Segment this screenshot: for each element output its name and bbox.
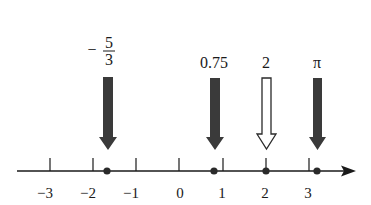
tick-labels: −3 −2 −1 0 1 2 3 xyxy=(37,185,312,201)
fraction-numerator: 5 xyxy=(105,34,113,51)
point-dot xyxy=(313,167,320,174)
tick-label: −3 xyxy=(37,185,53,201)
marker-label: π xyxy=(313,54,321,71)
down-arrow-filled-icon xyxy=(206,78,224,150)
tick-label: 0 xyxy=(176,185,184,201)
point-dot xyxy=(210,167,217,174)
marker-neg-five-thirds: − 5 3 xyxy=(87,34,117,175)
point-dot xyxy=(103,167,110,174)
axis-ticks xyxy=(50,158,309,171)
marker-label: 0.75 xyxy=(200,54,228,71)
tick-label: −1 xyxy=(123,185,139,201)
marker-2: 2 xyxy=(257,54,276,175)
fraction-label: − 5 3 xyxy=(87,34,115,68)
tick-label: 2 xyxy=(261,185,269,201)
down-arrow-hollow-icon xyxy=(257,78,276,149)
tick-label: 1 xyxy=(218,185,226,201)
tick-label: 3 xyxy=(304,185,312,201)
down-arrow-filled-icon xyxy=(309,78,326,150)
marker-0-75: 0.75 xyxy=(200,54,228,175)
number-line-diagram: −3 −2 −1 0 1 2 3 − 5 3 0.75 2 π xyxy=(0,0,371,205)
fraction-sign: − xyxy=(87,41,96,58)
fraction-denominator: 3 xyxy=(105,51,113,68)
down-arrow-filled-icon xyxy=(99,77,117,150)
marker-pi: π xyxy=(309,54,326,175)
tick-label: −2 xyxy=(80,185,96,201)
point-dot xyxy=(262,167,269,174)
marker-label: 2 xyxy=(262,54,270,71)
